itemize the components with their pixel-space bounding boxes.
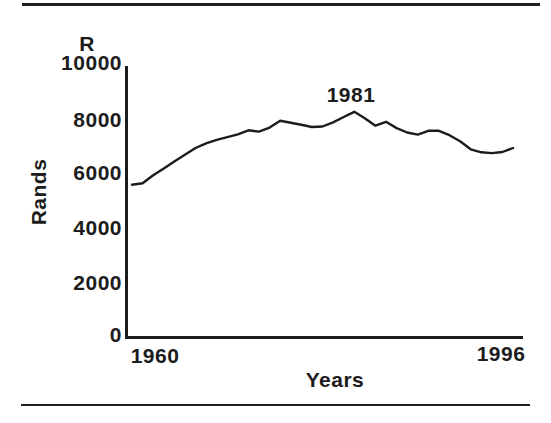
x-tick-label-1996: 1996 [460,343,542,365]
y-tick-label-4000: 4000 [52,217,122,239]
y-tick-label-2000: 2000 [52,272,122,294]
x-axis-title: Years [293,369,377,391]
bottom-rule-divider [21,404,530,406]
peak-annotation-1981: 1981 [310,84,392,106]
x-tick-label-1960: 1960 [114,345,196,367]
y-tick-label-0: 0 [52,324,122,346]
y-tick-label-6000: 6000 [52,162,122,184]
y-tick-label-10000: 10000 [52,52,122,74]
data-line [132,112,513,185]
scanned-figure-page: R 10000 8000 6000 4000 2000 0 Rands 1981… [0,0,551,423]
y-tick-label-8000: 8000 [52,109,122,131]
y-axis-title: Rands [28,159,50,226]
